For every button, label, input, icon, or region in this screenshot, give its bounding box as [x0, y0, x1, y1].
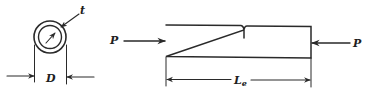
thickness-arrow-inner — [46, 33, 55, 43]
column-body — [166, 25, 311, 58]
thickness-label: t — [80, 4, 85, 17]
length-label-subscript: e — [242, 78, 247, 88]
length-label: Le — [233, 74, 247, 88]
diameter-label: D — [45, 72, 56, 85]
load-right-label: P — [352, 37, 362, 50]
thickness-arrow-outer — [61, 14, 79, 27]
tube-cross-section: t D — [7, 4, 94, 85]
column: P P Le — [109, 25, 362, 88]
inner-circle — [39, 26, 62, 49]
load-left-label: P — [109, 34, 119, 47]
length-label-main: L — [233, 74, 242, 87]
column-diagram: t D P P Le — [0, 0, 367, 93]
